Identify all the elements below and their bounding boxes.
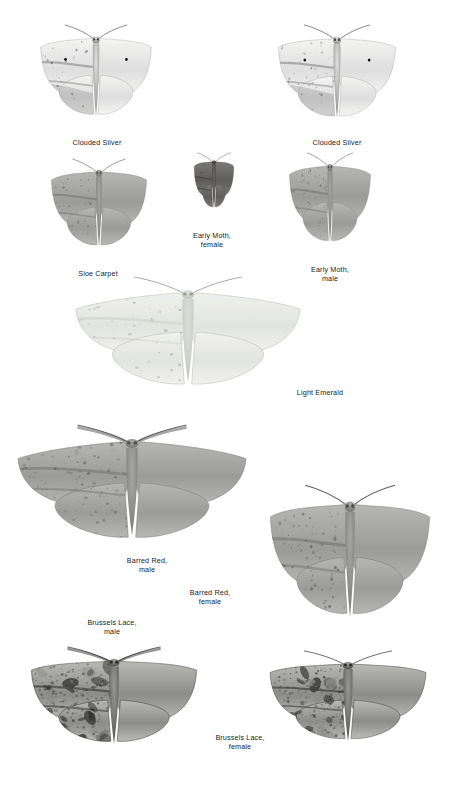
label-brussels-lace-male: Brussels Lace, male <box>87 618 136 636</box>
specimen-barred-red-male <box>8 424 256 554</box>
label-barred-red-male: Barred Red, male <box>127 556 167 574</box>
label-light-emerald: Light Emerald <box>297 388 343 397</box>
moth-plate-page: Clouded SilverClouded SilverSloe CarpetE… <box>0 0 456 792</box>
specimen-clouded-silver-left <box>25 24 167 130</box>
label-sloe-carpet: Sloe Carpet <box>78 269 118 278</box>
specimen-sloe-carpet <box>38 158 160 260</box>
label-barred-red-female: Barred Red, female <box>190 588 230 606</box>
specimen-barred-red-female <box>248 484 452 636</box>
label-early-moth-male: Early Moth, male <box>311 265 349 283</box>
label-early-moth-female: Early Moth, female <box>193 231 231 249</box>
label-clouded-silver-right: Clouded Silver <box>313 138 362 147</box>
specimen-early-moth-female <box>176 152 252 224</box>
specimen-early-moth-male <box>278 152 382 256</box>
label-brussels-lace-female: Brussels Lace, female <box>215 733 264 751</box>
specimen-brussels-lace-female <box>248 650 448 754</box>
label-clouded-silver-left: Clouded Silver <box>73 138 122 147</box>
specimen-brussels-lace-male <box>8 646 220 758</box>
specimen-clouded-silver-right <box>262 24 412 132</box>
specimen-light-emerald <box>66 276 310 400</box>
